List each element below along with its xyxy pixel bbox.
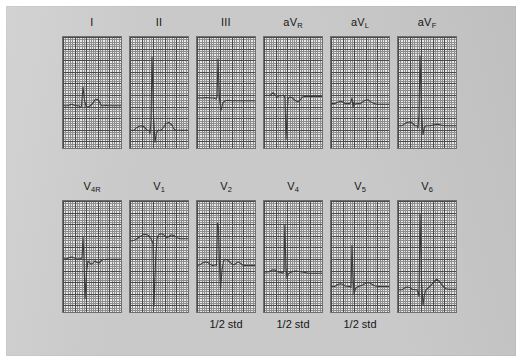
ecg-strip-lead-V2 (197, 201, 255, 312)
half-standard-note-V4: 1/2 std (264, 318, 322, 330)
lead-label-main: aV (351, 16, 365, 28)
lead-label-sub: 1 (161, 185, 165, 194)
lead-label-main: V (421, 180, 429, 192)
lead-label-sub: F (432, 21, 437, 30)
ecg-strip-lead-V5 (331, 201, 389, 312)
ecg-trace-lead-V2 (197, 201, 255, 312)
lead-label-aVR: aVR (264, 16, 322, 28)
ecg-trace-lead-V4 (264, 201, 322, 312)
ecg-strip-lead-V4R (63, 201, 121, 312)
lead-label-main: II (156, 16, 163, 28)
ecg-strip-lead-aVL (331, 37, 389, 148)
ecg-strip-lead-V4 (264, 201, 322, 312)
lead-label-main: V (153, 180, 161, 192)
lead-label-sub: 5 (362, 185, 366, 194)
ecg-trace-lead-V1 (130, 201, 188, 312)
half-standard-note-V2: 1/2 std (197, 318, 255, 330)
lead-label-sub: 6 (429, 185, 433, 194)
lead-label-V4: V4 (264, 180, 322, 192)
lead-label-sub: 2 (228, 185, 232, 194)
ecg-trace-lead-aVL (331, 37, 389, 148)
lead-label-main: III (221, 16, 231, 28)
lead-label-V5: V5 (331, 180, 389, 192)
ecg-strip-lead-V6 (398, 201, 456, 312)
lead-label-main: V (83, 180, 91, 192)
ecg-trace-lead-V5 (331, 201, 389, 312)
lead-label-sub: 4R (91, 185, 101, 194)
lead-label-sub: 4 (295, 185, 299, 194)
ecg-trace-lead-V6 (398, 201, 456, 312)
ecg-strip-lead-aVF (398, 37, 456, 148)
lead-label-main: I (90, 16, 93, 28)
ecg-trace-lead-I (63, 37, 121, 148)
lead-label-main: V (354, 180, 362, 192)
lead-label-sub: L (365, 21, 369, 30)
lead-label-main: V (220, 180, 228, 192)
ecg-strip-lead-I (63, 37, 121, 148)
lead-label-V6: V6 (398, 180, 456, 192)
ecg-figure: I II III (0, 0, 522, 362)
lead-label-I: I (63, 16, 121, 28)
ecg-strip-lead-aVR (264, 37, 322, 148)
ecg-trace-lead-III (197, 37, 255, 148)
lead-label-main: V (287, 180, 295, 192)
lead-label-aVF: aVF (398, 16, 456, 28)
ecg-strip-lead-II (130, 37, 188, 148)
lead-label-V4R: V4R (63, 180, 121, 192)
ecg-trace-lead-aVF (398, 37, 456, 148)
lead-label-V1: V1 (130, 180, 188, 192)
ecg-strip-lead-III (197, 37, 255, 148)
lead-label-sub: R (297, 21, 302, 30)
lead-label-III: III (197, 16, 255, 28)
lead-label-aVL: aVL (331, 16, 389, 28)
ecg-trace-lead-aVR (264, 37, 322, 148)
ecg-trace-lead-V4R (63, 201, 121, 312)
lead-label-main: aV (283, 16, 297, 28)
half-standard-note-V5: 1/2 std (331, 318, 389, 330)
ecg-trace-lead-II (130, 37, 188, 148)
lead-label-V2: V2 (197, 180, 255, 192)
lead-label-II: II (130, 16, 188, 28)
lead-label-main: aV (418, 16, 432, 28)
ecg-strip-lead-V1 (130, 201, 188, 312)
